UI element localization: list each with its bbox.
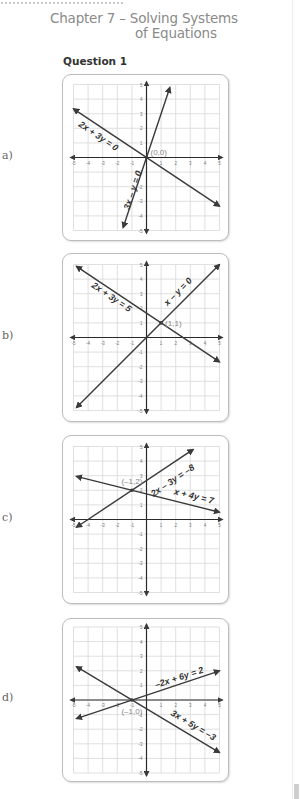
y-tick-label: -5 — [138, 409, 142, 414]
coordinate-plane: -5-4-3-2-11234554321-1-2-3-4-5–2x + 6y =… — [63, 619, 228, 781]
intersection-point — [130, 698, 134, 702]
x-tick-label: 3 — [189, 703, 192, 708]
x-tick-label: -5 — [71, 703, 75, 708]
y-tick-label: 1 — [140, 503, 143, 508]
question-heading: Question 1 — [63, 55, 127, 67]
x-tick-label: -4 — [86, 341, 90, 346]
x-tick-label: 4 — [204, 161, 207, 166]
intersection-point — [159, 321, 163, 325]
x-tick-label: -3 — [101, 161, 105, 166]
y-tick-label: 4 — [140, 277, 143, 282]
coordinate-plane: -5-4-3-2-11234554321-1-2-3-4-52x + 3y = … — [63, 75, 228, 240]
equation-label: 2x + 3y = 5 — [89, 280, 134, 315]
x-tick-label: -3 — [101, 523, 105, 528]
x-tick-label: 2 — [174, 161, 177, 166]
x-tick-label: 5 — [218, 523, 221, 528]
graph-d: -5-4-3-2-11234554321-1-2-3-4-5–2x + 6y =… — [62, 618, 229, 782]
equation-line — [76, 667, 219, 753]
y-tick-label: -2 — [138, 547, 142, 552]
y-tick-label: 1 — [140, 141, 143, 146]
coordinate-plane: -5-4-3-2-11234554321-1-2-3-4-52x – 3y = … — [63, 436, 228, 603]
x-tick-label: 1 — [160, 161, 163, 166]
x-tick-label: 5 — [218, 341, 221, 346]
x-tick-label: 4 — [204, 703, 207, 708]
y-tick-label: -4 — [138, 394, 142, 399]
part-label: a) — [2, 149, 13, 162]
y-tick-label: 3 — [140, 112, 143, 117]
x-tick-label: 1 — [160, 703, 163, 708]
x-tick-label: 1 — [160, 523, 163, 528]
graph-b: -5-4-3-2-11234554321-1-2-3-4-52x + 3y = … — [62, 253, 229, 422]
x-tick-label: -2 — [115, 341, 119, 346]
part-label: d) — [2, 691, 13, 704]
y-tick-label: 2 — [140, 669, 143, 674]
x-tick-label: -1 — [130, 523, 134, 528]
chapter-title: Chapter 7 – Solving Systems of Equations — [50, 11, 250, 41]
y-tick-label: -3 — [138, 379, 142, 384]
y-tick-label: -1 — [138, 532, 142, 537]
y-tick-label: -5 — [138, 591, 142, 596]
x-tick-label: 5 — [218, 161, 221, 166]
y-tick-label: 3 — [140, 654, 143, 659]
intersection-label: (–1,0) — [121, 707, 142, 716]
y-tick-label: -3 — [138, 561, 142, 566]
y-tick-label: -4 — [138, 756, 142, 761]
x-tick-label: -1 — [130, 341, 134, 346]
x-tick-label: -5 — [71, 523, 75, 528]
x-tick-label: -5 — [71, 341, 75, 346]
y-tick-label: 5 — [140, 445, 143, 450]
y-tick-label: 1 — [140, 683, 143, 688]
y-tick-label: -4 — [138, 576, 142, 581]
y-tick-label: 5 — [140, 625, 143, 630]
intersection-point — [130, 489, 134, 493]
equation-line — [76, 671, 219, 719]
y-tick-label: -3 — [138, 199, 142, 204]
equation-label: 3x – y = 0 — [122, 169, 144, 210]
y-tick-label: 4 — [140, 459, 143, 464]
x-tick-label: 1 — [160, 341, 163, 346]
x-tick-label: -4 — [86, 523, 90, 528]
x-tick-label: -5 — [71, 161, 75, 166]
y-tick-label: 3 — [140, 292, 143, 297]
chapter-title-line1: Chapter 7 – Solving Systems — [50, 11, 250, 26]
y-tick-label: -4 — [138, 214, 142, 219]
intersection-point — [145, 156, 149, 160]
x-tick-label: 3 — [189, 161, 192, 166]
y-tick-label: 1 — [140, 321, 143, 326]
x-tick-label: -3 — [101, 703, 105, 708]
x-tick-label: 3 — [189, 523, 192, 528]
y-tick-label: -5 — [138, 771, 142, 776]
intersection-label: (0,0) — [151, 148, 168, 157]
y-tick-label: 2 — [140, 126, 143, 131]
x-tick-label: -2 — [115, 523, 119, 528]
chapter-title-line2: of Equations — [50, 26, 250, 41]
x-tick-label: -4 — [86, 161, 90, 166]
x-tick-label: 4 — [204, 523, 207, 528]
coordinate-plane: -5-4-3-2-11234554321-1-2-3-4-52x + 3y = … — [63, 254, 228, 421]
x-tick-label: 4 — [204, 341, 207, 346]
y-tick-label: 4 — [140, 97, 143, 102]
x-tick-label: -3 — [101, 341, 105, 346]
x-tick-label: -1 — [130, 161, 134, 166]
x-tick-label: -2 — [115, 161, 119, 166]
y-tick-label: -2 — [138, 727, 142, 732]
part-label: c) — [2, 511, 12, 524]
equation-label: x + 4y = 7 — [172, 486, 216, 506]
x-tick-label: 5 — [218, 703, 221, 708]
intersection-label: (–1,2) — [121, 477, 142, 486]
y-tick-label: 4 — [140, 640, 143, 645]
y-tick-label: 5 — [140, 83, 143, 88]
header-dotted-rule — [0, 2, 125, 4]
y-tick-label: -1 — [138, 350, 142, 355]
x-tick-label: -4 — [86, 703, 90, 708]
graph-a: -5-4-3-2-11234554321-1-2-3-4-52x + 3y = … — [62, 74, 229, 241]
graph-c: -5-4-3-2-11234554321-1-2-3-4-52x – 3y = … — [62, 435, 229, 604]
equation-label: x – y = 0 — [161, 276, 194, 309]
y-tick-label: -2 — [138, 365, 142, 370]
y-tick-label: -3 — [138, 742, 142, 747]
x-tick-label: 2 — [174, 341, 177, 346]
y-tick-label: -5 — [138, 229, 142, 234]
intersection-label: (1,1) — [165, 319, 182, 328]
x-tick-label: 2 — [174, 523, 177, 528]
scrollbar-thumb[interactable] — [294, 784, 299, 799]
